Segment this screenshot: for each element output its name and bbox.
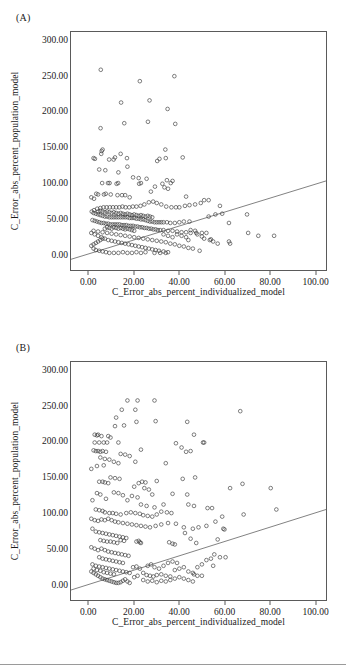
x-tick-mark [224, 271, 225, 275]
scatter-point [128, 213, 132, 217]
scatter-point [181, 156, 185, 160]
scatter-point [155, 513, 159, 517]
scatter-point [114, 211, 118, 215]
scatter-point [164, 156, 168, 160]
scatter-point [91, 218, 95, 222]
y-tick-label: 0.00 [24, 580, 68, 590]
scatter-point [138, 79, 142, 83]
scatter-point [154, 524, 158, 528]
scatter-point [146, 214, 150, 218]
scatter-point [139, 204, 143, 208]
scatter-point [118, 535, 122, 539]
scatter-point [100, 518, 104, 522]
scatter-point [132, 235, 136, 239]
scatter-point [155, 580, 159, 584]
scatter-point [145, 226, 149, 230]
panel-b-x-axis-label: C_Error_abs_percent_individualized_model [70, 617, 327, 627]
scatter-point [220, 515, 224, 519]
scatter-point [174, 441, 178, 445]
scatter-point [126, 165, 130, 169]
scatter-point [140, 245, 144, 249]
scatter-point [180, 230, 184, 234]
scatter-point [159, 510, 163, 514]
scatter-point [207, 198, 211, 202]
scatter-point [209, 238, 213, 242]
panel-a-x-axis-label: C_Error_abs_percent_individualized_model [70, 287, 327, 297]
scatter-point [242, 513, 246, 517]
scatter-point [113, 551, 117, 555]
scatter-point [108, 558, 112, 562]
scatter-point [146, 120, 150, 124]
scatter-point [150, 238, 154, 242]
scatter-point [135, 540, 139, 544]
scatter-point [94, 212, 98, 216]
scatter-point [177, 567, 181, 571]
scatter-point [109, 193, 113, 197]
scatter-point [216, 242, 220, 246]
scatter-point [139, 503, 143, 507]
scatter-point [157, 567, 161, 571]
scatter-point [141, 578, 145, 582]
scatter-point [125, 156, 129, 160]
scatter-point [171, 542, 175, 546]
scatter-point [177, 244, 181, 248]
scatter-point [99, 456, 103, 460]
scatter-point [148, 525, 152, 529]
y-tick-label: 100.00 [24, 178, 68, 188]
scatter-point [120, 553, 124, 557]
scatter-point [159, 523, 163, 527]
footer-divider [0, 664, 346, 665]
scatter-point [116, 193, 120, 197]
scatter-point [171, 492, 175, 496]
x-tick-label: 20.00 [123, 277, 144, 287]
scatter-point [96, 230, 100, 234]
scatter-point [91, 527, 95, 531]
scatter-point [111, 533, 115, 537]
scatter-point [184, 230, 188, 234]
scatter-point [159, 579, 163, 583]
scatter-point [139, 213, 143, 217]
scatter-point [180, 446, 184, 450]
scatter-point [117, 212, 121, 216]
scatter-point [103, 210, 107, 214]
scatter-point [228, 486, 232, 490]
panel-a-y-axis-label: C_Error_abs_percent_population_model [8, 31, 22, 271]
scatter-point [130, 228, 134, 232]
scatter-point [104, 450, 108, 454]
scatter-point [212, 553, 216, 557]
y-tick-label: 50.00 [24, 214, 68, 224]
scatter-point [136, 399, 140, 403]
scatter-point [101, 557, 105, 561]
scatter-point [177, 220, 181, 224]
scatter-point [114, 233, 118, 237]
scatter-point [119, 452, 123, 456]
x-tick-label: 0.00 [80, 277, 97, 287]
scatter-point [117, 581, 121, 585]
x-tick-mark [315, 601, 316, 605]
scatter-point [117, 240, 121, 244]
scatter-point [200, 231, 204, 235]
scatter-point [182, 525, 186, 529]
scatter-point [173, 543, 177, 547]
scatter-point [117, 461, 121, 465]
scatter-point [150, 515, 154, 519]
scatter-point [126, 498, 130, 502]
scatter-point [131, 176, 135, 180]
scatter-point [159, 573, 163, 577]
scatter-point [144, 218, 148, 222]
panel-a: (A) C_Error_abs_percent_population_model… [0, 8, 346, 328]
scatter-point [206, 506, 210, 510]
scatter-point [117, 171, 121, 175]
scatter-point [101, 214, 105, 218]
scatter-point [93, 219, 97, 223]
scatter-point [159, 240, 163, 244]
x-tick-mark [179, 601, 180, 605]
scatter-plot-figure: (A) C_Error_abs_percent_population_model… [0, 0, 346, 671]
scatter-point [144, 481, 148, 485]
scatter-point [121, 521, 125, 525]
panel-a-plot-area [70, 31, 327, 271]
scatter-point [126, 251, 130, 255]
x-tick-mark [88, 601, 89, 605]
scatter-point [146, 580, 150, 584]
scatter-point [113, 424, 117, 428]
